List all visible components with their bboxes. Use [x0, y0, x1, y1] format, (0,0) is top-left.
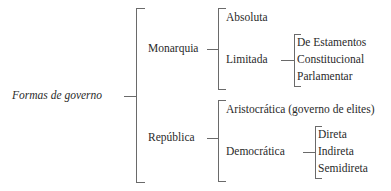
- limitada-bracket-bottom: [294, 86, 301, 87]
- limitada-bracket-top: [294, 34, 301, 35]
- democratica-connector: [303, 152, 315, 153]
- node-parlamentar: Parlamentar: [297, 70, 353, 83]
- monarquia-bracket: [218, 8, 219, 90]
- democratica-bracket-bottom: [315, 178, 322, 179]
- root-label: Formas de governo: [12, 89, 102, 102]
- node-semidireta: Semidireta: [318, 162, 368, 175]
- node-aristocratica: Aristocrática (governo de elites): [226, 103, 374, 116]
- branch-republica: República: [148, 131, 195, 144]
- republica-bracket-bottom: [218, 181, 226, 182]
- node-indireta: Indireta: [318, 145, 354, 158]
- node-democratica: Democrática: [226, 145, 285, 158]
- root-connector: [124, 96, 136, 97]
- limitada-connector: [281, 60, 294, 61]
- limitada-bracket: [294, 34, 295, 87]
- node-direta: Direta: [318, 128, 347, 141]
- node-de-estamentos: De Estamentos: [297, 36, 366, 49]
- root-bracket-top: [136, 8, 145, 9]
- root-bracket-bottom: [136, 182, 145, 183]
- monarquia-bracket-bottom: [218, 89, 226, 90]
- branch-monarquia: Monarquia: [148, 42, 198, 55]
- republica-bracket-top: [218, 100, 226, 101]
- democratica-bracket-top: [315, 126, 322, 127]
- root-bracket: [136, 8, 137, 183]
- republica-bracket: [218, 100, 219, 182]
- monarquia-connector: [207, 49, 218, 50]
- republica-connector: [207, 138, 218, 139]
- node-constitucional: Constitucional: [297, 53, 364, 66]
- node-limitada: Limitada: [226, 53, 268, 66]
- democratica-bracket: [315, 126, 316, 179]
- node-absoluta: Absoluta: [226, 11, 268, 24]
- monarquia-bracket-top: [218, 8, 226, 9]
